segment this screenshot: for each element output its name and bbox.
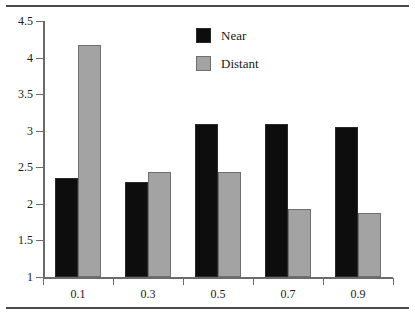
x-axis-tick (393, 278, 394, 285)
y-axis-tick (36, 167, 43, 168)
bar-distant-0.3 (148, 172, 171, 277)
y-axis-tick-label: 2 (0, 198, 33, 210)
y-axis-tick (36, 131, 43, 132)
legend-item-near: Near (196, 28, 259, 43)
bar-distant-0.9 (358, 213, 381, 277)
y-axis-tick-label: 3.5 (0, 88, 33, 100)
chart-legend: Near Distant (196, 28, 259, 84)
bar-near-0.1 (55, 178, 78, 277)
x-axis-tick-label: 0.1 (48, 288, 108, 301)
x-axis-line (43, 277, 393, 279)
y-axis-tick-label: 2.5 (0, 161, 33, 173)
x-axis-tick-label: 0.9 (328, 288, 388, 301)
bottom-horizontal-rule (6, 307, 409, 309)
y-axis-tick-label: 1.5 (0, 234, 33, 246)
x-axis-tick-label: 0.5 (188, 288, 248, 301)
bar-distant-0.5 (218, 172, 241, 277)
y-axis-tick (36, 94, 43, 95)
bar-distant-0.1 (78, 45, 101, 277)
x-axis-tick (113, 278, 114, 285)
bar-near-0.9 (335, 127, 358, 277)
y-axis-tick (36, 58, 43, 59)
y-axis-tick (36, 277, 43, 278)
top-horizontal-rule (6, 5, 409, 7)
x-axis-tick-label: 0.7 (258, 288, 318, 301)
legend-swatch-distant-icon (196, 56, 211, 71)
bar-chart-figure: 11.522.533.544.5 0.10.30.50.70.9 Near Di… (0, 0, 415, 315)
x-axis-tick (253, 278, 254, 285)
bar-near-0.3 (125, 182, 148, 277)
y-axis-tick (36, 240, 43, 241)
y-axis-tick-label: 1 (0, 271, 33, 283)
x-axis-tick (183, 278, 184, 285)
bar-near-0.7 (265, 124, 288, 277)
x-axis-tick (323, 278, 324, 285)
legend-swatch-near-icon (196, 28, 211, 43)
legend-label-near: Near (221, 28, 246, 43)
x-axis-tick-label: 0.3 (118, 288, 178, 301)
legend-label-distant: Distant (221, 56, 259, 71)
y-axis-tick (36, 21, 43, 22)
y-axis-tick-label: 3 (0, 125, 33, 137)
y-axis-tick-label: 4 (0, 52, 33, 64)
legend-item-distant: Distant (196, 56, 259, 71)
bar-distant-0.7 (288, 209, 311, 277)
x-axis-tick (43, 278, 44, 285)
bar-near-0.5 (195, 124, 218, 277)
y-axis-tick (36, 204, 43, 205)
y-axis-tick-label: 4.5 (0, 15, 33, 27)
